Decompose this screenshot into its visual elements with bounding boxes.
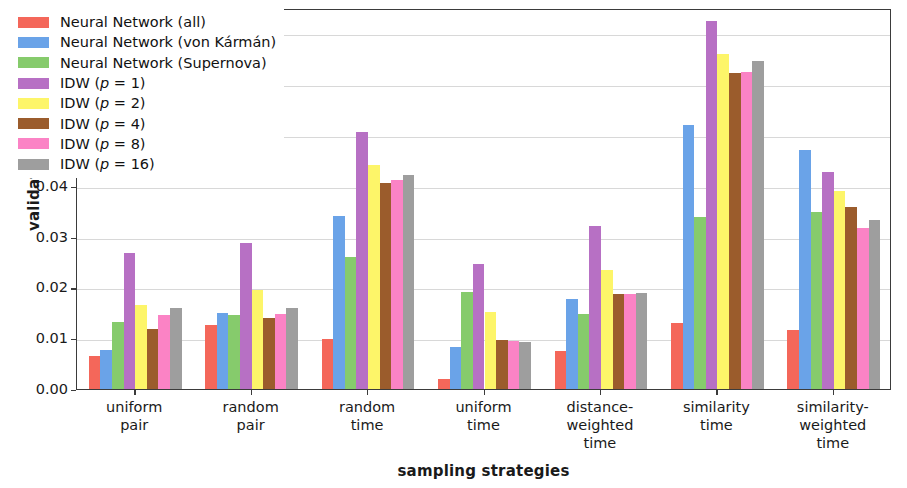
bar: [205, 325, 217, 389]
x-tick-label-line: similarity-: [763, 398, 903, 416]
bar: [368, 165, 380, 389]
bar: [391, 180, 403, 389]
legend-label: IDW (p = 16): [60, 156, 155, 172]
bar: [566, 299, 578, 389]
bar: [89, 356, 101, 389]
bar: [158, 315, 170, 389]
bar: [147, 329, 159, 389]
bar: [601, 270, 613, 389]
legend-swatch: [18, 138, 49, 149]
legend-label: Neural Network (all): [60, 14, 206, 30]
bar: [741, 72, 753, 389]
legend-item: Neural Network (Supernova): [18, 53, 276, 73]
legend-swatch: [18, 57, 49, 68]
x-tick-mark: [251, 390, 252, 395]
legend-label: IDW (p = 4): [60, 116, 146, 132]
y-tick-label: 0.00: [8, 381, 68, 397]
bar: [170, 308, 182, 389]
legend-item: IDW (p = 4): [18, 113, 276, 133]
x-tick-label-line: time: [530, 434, 670, 452]
bar: [834, 191, 846, 389]
legend-swatch: [18, 98, 49, 109]
bar: [461, 292, 473, 389]
gridline: [77, 188, 890, 189]
bar: [275, 314, 287, 389]
legend-item: IDW (p = 8): [18, 134, 276, 154]
bar: [717, 54, 729, 389]
bar: [706, 21, 718, 389]
bar: [450, 347, 462, 389]
bar: [636, 293, 648, 389]
legend-swatch: [18, 118, 49, 129]
legend-item: Neural Network (von Kármán): [18, 32, 276, 52]
y-tick-label: 0.04: [8, 178, 68, 194]
bar: [799, 150, 811, 389]
bar: [613, 294, 625, 389]
bar: [555, 351, 567, 389]
bar: [822, 172, 834, 389]
bar: [380, 183, 392, 389]
bar: [228, 315, 240, 389]
x-tick-mark: [600, 390, 601, 395]
x-tick-mark: [716, 390, 717, 395]
gridline: [77, 239, 890, 240]
legend-swatch: [18, 159, 49, 170]
bar: [869, 220, 881, 389]
legend-item: IDW (p = 16): [18, 154, 276, 174]
bar: [252, 290, 264, 389]
bar: [729, 73, 741, 389]
legend-label: Neural Network (von Kármán): [60, 34, 276, 50]
x-axis-title: sampling strategies: [76, 462, 891, 480]
bar: [485, 312, 497, 389]
y-tick-label: 0.02: [8, 279, 68, 295]
x-tick-mark: [484, 390, 485, 395]
bar: [217, 313, 229, 389]
x-tick-mark: [367, 390, 368, 395]
bar: [322, 339, 334, 389]
bar: [240, 243, 252, 389]
bar: [508, 341, 520, 389]
legend-swatch: [18, 37, 49, 48]
bar: [624, 294, 636, 389]
legend-swatch: [18, 78, 49, 89]
bar-chart-figure: validation cost sampling strategies 0.00…: [0, 0, 907, 488]
x-tick-label-line: weighted: [763, 416, 903, 434]
bar: [578, 314, 590, 389]
legend-item: IDW (p = 1): [18, 73, 276, 93]
bar: [811, 212, 823, 389]
bar: [356, 132, 368, 389]
bar: [263, 318, 275, 389]
bar: [496, 340, 508, 389]
legend-item: IDW (p = 2): [18, 93, 276, 113]
bar: [345, 257, 357, 389]
legend-label: IDW (p = 1): [60, 75, 146, 91]
bar: [845, 207, 857, 389]
bar: [438, 379, 450, 389]
x-tick-mark: [833, 390, 834, 395]
legend-swatch: [18, 17, 49, 28]
bar: [112, 322, 124, 389]
bar: [787, 330, 799, 389]
legend-label: IDW (p = 8): [60, 136, 146, 152]
bar: [286, 308, 298, 389]
bar: [135, 305, 147, 389]
x-tick-label-line: time: [763, 434, 903, 452]
x-tick-mark: [134, 390, 135, 395]
legend-label: IDW (p = 2): [60, 95, 146, 111]
y-tick-label: 0.03: [8, 229, 68, 245]
bar: [333, 216, 345, 389]
bar: [752, 61, 764, 389]
bar: [473, 264, 485, 389]
y-tick-label: 0.01: [8, 330, 68, 346]
bar: [694, 217, 706, 389]
bar: [857, 228, 869, 389]
bar: [671, 323, 683, 389]
bar: [100, 350, 112, 389]
bar: [519, 342, 531, 389]
legend: Neural Network (all)Neural Network (von …: [14, 8, 284, 178]
x-tick-label: similarity-weightedtime: [763, 398, 903, 452]
bar: [124, 253, 136, 389]
legend-label: Neural Network (Supernova): [60, 55, 267, 71]
bar: [403, 175, 415, 389]
legend-item: Neural Network (all): [18, 12, 276, 32]
